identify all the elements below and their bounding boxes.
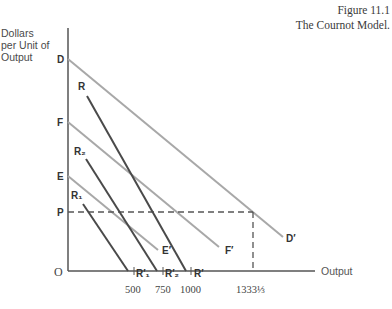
- line-EE: [68, 176, 158, 250]
- cournot-diagram: D F E P O R R₂ R₁ R′₁ R′₂ R′ E′ F′ D′ 50…: [0, 0, 392, 309]
- origin-label: O: [54, 265, 63, 279]
- label-R1: R₁: [71, 190, 82, 201]
- label-E-prime: E′: [162, 245, 172, 256]
- label-E: E: [57, 171, 64, 182]
- label-D: D: [57, 54, 64, 65]
- x-axis-label: Output: [321, 265, 353, 277]
- line-R2R2: [86, 159, 157, 271]
- label-R1-prime: R′₁: [136, 268, 150, 279]
- label-R: R: [78, 81, 86, 92]
- label-D-prime: D′: [286, 233, 296, 244]
- label-F: F: [57, 117, 63, 128]
- label-R2-prime: R′₂: [165, 268, 179, 279]
- label-R-prime: R′: [194, 268, 204, 279]
- x-tick-500: 500: [125, 284, 141, 295]
- label-P: P: [57, 207, 64, 218]
- label-F-prime: F′: [225, 245, 234, 256]
- x-tick-1333: 1333⅓: [236, 284, 265, 295]
- line-FF: [68, 122, 219, 247]
- x-tick-1000: 1000: [180, 284, 201, 295]
- label-R2: R₂: [74, 146, 86, 157]
- x-tick-750: 750: [155, 284, 171, 295]
